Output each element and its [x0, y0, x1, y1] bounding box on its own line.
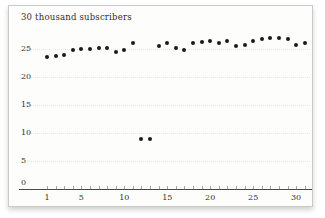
data-point: [122, 48, 126, 52]
x-tick: [90, 186, 91, 189]
x-tick: [141, 186, 142, 189]
x-tick: [245, 186, 246, 189]
data-point: [97, 46, 101, 50]
data-point: [234, 44, 238, 48]
y-tick-label: 5: [21, 157, 37, 165]
x-tick: [81, 186, 82, 189]
data-point: [191, 41, 195, 45]
data-point: [217, 41, 221, 45]
data-point: [157, 44, 161, 48]
data-point: [303, 41, 307, 45]
x-tick: [150, 186, 151, 189]
page: 30 thousand subscribers 2520151050151015…: [0, 0, 325, 218]
plot-area: 2520151050151015202530: [9, 6, 312, 206]
x-tick-label: 5: [73, 194, 89, 202]
data-point: [79, 47, 83, 51]
y-grid-line: [27, 161, 310, 162]
x-tick: [219, 186, 220, 189]
x-tick: [288, 186, 289, 189]
y-tick-label: 10: [21, 129, 37, 137]
x-tick: [133, 186, 134, 189]
data-point: [54, 54, 58, 58]
x-tick: [202, 186, 203, 189]
data-point: [277, 36, 281, 40]
x-tick: [73, 186, 74, 189]
x-tick: [99, 186, 100, 189]
y-tick-label: 15: [21, 101, 37, 109]
data-point: [200, 40, 204, 44]
y-tick-label: 20: [21, 73, 37, 81]
x-tick: [210, 186, 211, 189]
chart-card: 30 thousand subscribers 2520151050151015…: [8, 5, 313, 207]
x-tick: [159, 186, 160, 189]
data-point: [251, 39, 255, 43]
x-tick: [305, 186, 306, 189]
x-tick: [56, 186, 57, 189]
x-tick: [279, 186, 280, 189]
data-point: [148, 137, 152, 141]
data-point: [88, 47, 92, 51]
data-point: [286, 37, 290, 41]
data-point: [165, 41, 169, 45]
x-tick: [253, 186, 254, 189]
x-tick: [270, 186, 271, 189]
data-point: [105, 46, 109, 50]
data-point: [294, 43, 298, 47]
data-point: [268, 36, 272, 40]
data-point: [174, 46, 178, 50]
data-point: [260, 37, 264, 41]
x-tick-label: 15: [159, 194, 175, 202]
x-tick: [64, 186, 65, 189]
x-tick: [227, 186, 228, 189]
x-axis-line: [19, 189, 312, 190]
y-grid-line: [27, 49, 310, 50]
y-grid-line: [27, 105, 310, 106]
x-tick: [184, 186, 185, 189]
x-tick-label: 10: [116, 194, 132, 202]
y-tick-label: 25: [21, 45, 37, 53]
x-tick-label: 1: [39, 194, 55, 202]
data-point: [45, 55, 49, 59]
x-tick: [193, 186, 194, 189]
x-tick: [296, 186, 297, 189]
x-tick: [167, 186, 168, 189]
x-tick: [262, 186, 263, 189]
data-point: [139, 137, 143, 141]
x-tick-label: 25: [245, 194, 261, 202]
data-point: [62, 53, 66, 57]
data-point: [182, 48, 186, 52]
data-point: [208, 39, 212, 43]
x-tick: [107, 186, 108, 189]
data-point: [114, 50, 118, 54]
x-tick-label: 20: [202, 194, 218, 202]
x-tick-label: 30: [288, 194, 304, 202]
x-tick: [124, 186, 125, 189]
x-tick: [47, 186, 48, 189]
y-grid-line: [27, 133, 310, 134]
x-tick: [236, 186, 237, 189]
y-grid-line: [27, 77, 310, 78]
x-tick: [176, 186, 177, 189]
x-tick: [116, 186, 117, 189]
data-point: [71, 48, 75, 52]
y-tick-label: 0: [21, 179, 37, 187]
data-point: [131, 41, 135, 45]
data-point: [225, 39, 229, 43]
data-point: [243, 43, 247, 47]
